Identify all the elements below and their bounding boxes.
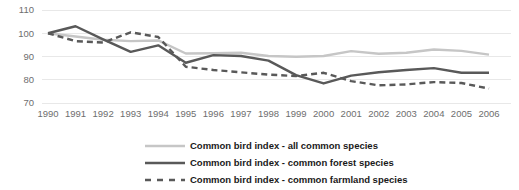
x-tick-label: 1996: [203, 108, 224, 119]
x-tick-label: 2002: [368, 108, 389, 119]
common-bird-index-chart: 110100908070 199019911992199319941995199…: [0, 0, 519, 190]
x-tick-label: 2003: [396, 108, 417, 119]
x-tick-label: 2001: [341, 108, 362, 119]
x-tick-label: 1993: [120, 108, 141, 119]
chart-legend: Common bird index - all common speciesCo…: [145, 140, 407, 185]
x-tick-label: 2004: [423, 108, 444, 119]
y-tick-label: 100: [18, 28, 34, 39]
x-tick-label: 2000: [313, 108, 334, 119]
y-axis-tick-labels: 110100908070: [18, 4, 34, 108]
legend-label-0: Common bird index - all common species: [190, 140, 378, 151]
y-tick-label: 90: [23, 51, 34, 62]
legend-label-2: Common bird index - common farmland spec…: [190, 174, 407, 185]
x-tick-label: 1991: [65, 108, 86, 119]
legend-label-1: Common bird index - common forest specie…: [190, 157, 394, 168]
chart-canvas: 110100908070 199019911992199319941995199…: [0, 0, 519, 190]
x-tick-label: 1992: [93, 108, 114, 119]
x-tick-label: 2006: [478, 108, 499, 119]
y-tick-label: 80: [23, 74, 34, 85]
x-tick-label: 2005: [451, 108, 472, 119]
x-tick-label: 1998: [258, 108, 279, 119]
y-tick-label: 110: [19, 4, 34, 15]
x-tick-label: 1999: [285, 108, 306, 119]
x-tick-label: 1994: [148, 108, 169, 119]
x-tick-label: 1995: [175, 108, 196, 119]
x-axis-tick-labels: 1990199119921993199419951996199719981999…: [37, 108, 499, 119]
x-tick-label: 1990: [37, 108, 58, 119]
x-tick-label: 1997: [230, 108, 251, 119]
data-series: [48, 26, 489, 88]
y-tick-label: 70: [23, 97, 34, 108]
